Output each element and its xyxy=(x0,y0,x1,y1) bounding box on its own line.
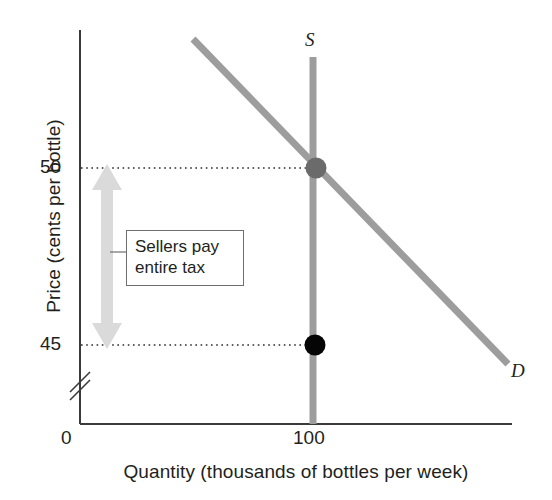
equilibrium-point-50 xyxy=(306,158,327,179)
tax-incidence-arrow xyxy=(92,164,122,349)
y-tick-label-45: 45 xyxy=(40,333,61,355)
supply-curve-label: S xyxy=(305,29,315,51)
seller-price-point-45 xyxy=(305,335,326,356)
x-tick-label-0: 0 xyxy=(61,427,72,449)
x-tick-label-100: 100 xyxy=(293,427,325,449)
supply-demand-figure: Price (cents per bottle) Quantity (thous… xyxy=(0,0,552,500)
x-axis-title: Quantity (thousands of bottles per week) xyxy=(76,461,516,483)
demand-curve xyxy=(193,39,508,364)
y-axis-title: Price (cents per bottle) xyxy=(43,66,65,366)
plot-canvas xyxy=(0,0,552,500)
tax-incidence-callout: Sellers pay entire tax xyxy=(126,230,244,286)
y-tick-label-50: 50 xyxy=(40,156,61,178)
demand-curve-label: D xyxy=(511,360,525,382)
callout-text-line-1: Sellers pay xyxy=(135,237,219,256)
callout-text-line-2: entire tax xyxy=(135,257,235,278)
